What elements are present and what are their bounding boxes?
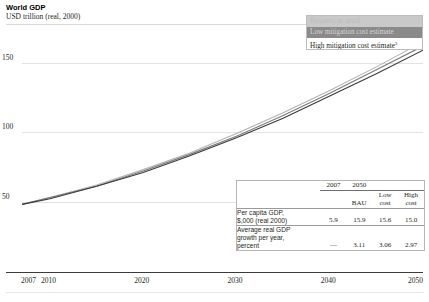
table-subheader-high-cost: High cost	[398, 190, 424, 208]
row-label-line2: growth per year,	[237, 234, 284, 241]
summary-table: 2007 2050 BAU Low cost High cost Per cap…	[236, 180, 425, 251]
cell-growth-2007: —	[320, 225, 346, 250]
legend-item-business-as-usual[interactable]: Business as usual	[307, 16, 422, 27]
x-axis-tick-label: 2020	[134, 276, 149, 285]
x-axis-tick-label: 2010	[41, 276, 56, 285]
x-axis-tick-label: 2040	[321, 276, 336, 285]
table-subheader-corner	[237, 190, 320, 208]
row-label-line1: Per capita GDP,	[237, 209, 284, 216]
row-label-line1: Average real GDP	[237, 226, 290, 233]
chart-legend: Business as usual Low mitigation cost es…	[306, 15, 423, 50]
x-axis-labels: 200720102020203020402050	[6, 276, 423, 288]
subheader-high-line2: cost	[405, 199, 416, 207]
cell-growth-low: 3.06	[372, 225, 398, 250]
table-subheader-bau: BAU	[346, 190, 372, 208]
cell-per-capita-bau: 15.9	[346, 208, 372, 225]
legend-item-high-mitigation-cost[interactable]: High mitigation cost estimate3	[307, 38, 422, 49]
x-axis-tick-label: 2007	[21, 276, 36, 285]
cell-growth-bau: 3.11	[346, 225, 372, 250]
row-label-line3: percent	[237, 242, 259, 249]
legend-footnote-marker: 3	[395, 41, 398, 46]
subheader-low-line2: cost	[380, 199, 391, 207]
table-row-label-per-capita-gdp: Per capita GDP, $,000 (real 2000)	[237, 208, 320, 225]
cell-per-capita-high: 15.0	[398, 208, 424, 225]
row-label-line2: $,000 (real 2000)	[237, 217, 287, 224]
cell-growth-high: 2.97	[398, 225, 424, 250]
footer-divider	[6, 292, 423, 293]
table-subheader-blank	[320, 190, 346, 208]
table-corner-cell	[237, 181, 320, 190]
table-header-row-sub: BAU Low cost High cost	[237, 190, 424, 208]
table-header-row-years: 2007 2050	[237, 181, 424, 190]
table-subheader-low-cost: Low cost	[372, 190, 398, 208]
table-row: Per capita GDP, $,000 (real 2000) 5.9 15…	[237, 208, 424, 225]
y-axis-tick-label: 100	[2, 123, 20, 131]
page-title: World GDP	[6, 3, 423, 12]
legend-label: Low mitigation cost estimate	[310, 28, 394, 36]
x-axis-tick-label: 2050	[408, 276, 423, 285]
y-axis-tick-label: 150	[2, 54, 20, 62]
table-row: Average real GDP growth per year, percen…	[237, 225, 424, 250]
legend-item-low-mitigation-cost[interactable]: Low mitigation cost estimate	[307, 27, 422, 38]
table-row-label-growth-rate: Average real GDP growth per year, percen…	[237, 225, 320, 250]
table-header-2050: 2050	[346, 181, 372, 190]
legend-label: Business as usual	[310, 17, 360, 25]
cell-per-capita-low: 15.6	[372, 208, 398, 225]
table-header-2050-span-high	[398, 181, 424, 190]
table-header-2007: 2007	[320, 181, 346, 190]
cell-per-capita-2007: 5.9	[320, 208, 346, 225]
subheader-low-line1: Low	[379, 191, 392, 199]
x-axis-tick-label: 2030	[227, 276, 242, 285]
subheader-high-line1: High	[404, 191, 418, 199]
y-axis-tick-label: 50	[2, 193, 20, 201]
table-header-2050-span-low	[372, 181, 398, 190]
x-axis-line	[6, 272, 423, 273]
legend-label: High mitigation cost estimate	[310, 42, 395, 49]
